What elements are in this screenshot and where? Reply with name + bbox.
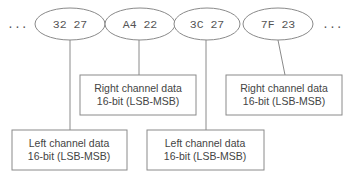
- byte-pair-1: 32 27: [35, 8, 105, 40]
- connector-pair4-right: [278, 40, 285, 75]
- box-line2: 16-bit (LSB-MSB): [97, 95, 179, 107]
- box-line2: 16-bit (LSB-MSB): [28, 150, 110, 162]
- byte-pair-label: 32 27: [53, 18, 88, 31]
- left-channel-box-1: Left channel data 16-bit (LSB-MSB): [12, 130, 127, 170]
- box-line2: 16-bit (LSB-MSB): [243, 95, 325, 107]
- left-channel-box-2: Left channel data 16-bit (LSB-MSB): [147, 130, 264, 170]
- right-channel-box-2: Right channel data 16-bit (LSB-MSB): [226, 75, 342, 115]
- box-line1: Left channel data: [29, 137, 110, 149]
- byte-pair-label: 3C 27: [190, 18, 225, 31]
- leading-ellipsis: ...: [7, 18, 28, 31]
- byte-pair-4: 7F 23: [243, 8, 313, 40]
- box-line1: Left channel data: [165, 137, 246, 149]
- box-line1: Right channel data: [240, 82, 328, 94]
- box-line1: Right channel data: [94, 82, 182, 94]
- box-line2: 16-bit (LSB-MSB): [164, 150, 246, 162]
- byte-layout-diagram: ... 32 27 A4 22 3C 27 7F 23 ... Right ch…: [0, 0, 355, 184]
- byte-pair-label: 7F 23: [261, 18, 296, 31]
- trailing-ellipsis: ...: [322, 18, 343, 31]
- byte-pair-2: A4 22: [105, 8, 175, 40]
- byte-pair-label: A4 22: [123, 18, 158, 31]
- right-channel-box-1: Right channel data 16-bit (LSB-MSB): [80, 75, 196, 115]
- byte-pair-3: 3C 27: [174, 8, 240, 40]
